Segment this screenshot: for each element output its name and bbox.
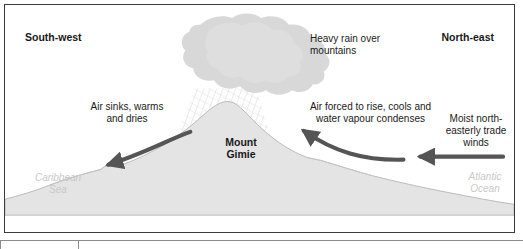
- ascending-air-arrow: [304, 131, 404, 160]
- annotation-trade-winds: Moist north- easterly trade winds: [435, 113, 515, 149]
- direction-label-south-west: South-west: [25, 31, 82, 43]
- annotation-leeward-air-sinks: Air sinks, warms and dries: [73, 101, 181, 125]
- relief-rainfall-diagram: South-west North-east Air sinks, warms a…: [0, 0, 523, 249]
- water-label-caribbean-sea: Caribbean Sea: [17, 172, 99, 196]
- diagram-panel: South-west North-east Air sinks, warms a…: [4, 4, 515, 233]
- table-left-rule: [0, 240, 1, 249]
- peak-label-mount-gimie: Mount Gimie: [208, 136, 274, 160]
- annotation-heavy-rain: Heavy rain over mountains: [310, 33, 420, 57]
- table-column-rule: [78, 240, 79, 249]
- annotation-windward-air-rises: Air forced to rise, cools and water vapo…: [293, 101, 448, 125]
- water-label-atlantic-ocean: Atlantic Ocean: [449, 171, 515, 195]
- direction-label-north-east: North-east: [441, 31, 494, 43]
- page-table-edge: [0, 240, 523, 249]
- rain-cloud-icon: [182, 13, 330, 94]
